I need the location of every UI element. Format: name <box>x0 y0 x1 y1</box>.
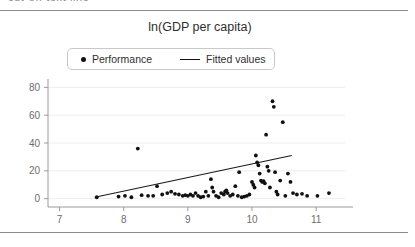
data-point <box>140 193 144 197</box>
y-tick-label: 40 <box>29 138 41 149</box>
tick-labels: 0204060807891011 <box>29 82 322 225</box>
data-point <box>206 194 210 198</box>
data-point <box>272 105 276 109</box>
data-point <box>123 194 127 198</box>
data-point <box>263 181 267 185</box>
data-point <box>237 170 241 174</box>
data-point <box>136 147 140 151</box>
data-point <box>129 195 133 199</box>
data-point <box>201 195 205 199</box>
data-point <box>281 120 285 124</box>
x-tick-label: 9 <box>185 214 191 225</box>
data-point <box>233 184 237 188</box>
data-point <box>151 194 155 198</box>
data-point <box>267 169 271 173</box>
data-point <box>254 154 258 158</box>
chart-figure: ln(GDP per capita) Performance Fitted va… <box>0 11 415 231</box>
data-point <box>278 179 282 183</box>
clipped-text-strip: cut-off text line <box>0 0 415 9</box>
data-point <box>283 194 287 198</box>
data-point <box>273 170 277 174</box>
data-point <box>165 191 169 195</box>
data-points <box>95 99 331 199</box>
data-point <box>271 99 275 103</box>
gridlines <box>48 87 345 198</box>
data-point <box>316 194 320 198</box>
data-point <box>268 186 272 190</box>
data-point <box>265 165 269 169</box>
x-tick-label: 10 <box>246 214 258 225</box>
fitted-line-path <box>95 156 292 198</box>
data-point <box>146 194 150 198</box>
data-point <box>212 190 216 194</box>
data-point <box>194 191 198 195</box>
data-point <box>300 192 304 196</box>
x-tick-label: 11 <box>311 214 322 225</box>
data-point <box>209 177 213 181</box>
data-point <box>117 195 121 199</box>
y-tick-label: 0 <box>34 193 40 204</box>
divider-bottom <box>0 232 408 233</box>
data-point <box>173 192 177 196</box>
data-point <box>264 133 268 137</box>
data-point <box>305 194 309 198</box>
data-point <box>204 190 208 194</box>
data-point <box>177 193 181 197</box>
scatter-plot: 0204060807891011 <box>0 11 415 231</box>
data-point <box>191 194 195 198</box>
data-point <box>226 191 230 195</box>
data-point <box>286 172 290 176</box>
data-point <box>289 180 293 184</box>
y-tick-label: 60 <box>29 110 41 121</box>
data-point <box>231 193 235 197</box>
data-point <box>253 186 257 190</box>
y-tick-label: 80 <box>29 82 41 93</box>
data-point <box>295 193 299 197</box>
data-point <box>291 191 295 195</box>
x-tick-label: 7 <box>57 214 63 225</box>
data-point <box>327 191 331 195</box>
data-point <box>160 193 164 197</box>
data-point <box>258 172 262 176</box>
data-point <box>210 186 214 190</box>
data-point <box>248 193 252 197</box>
fitted-line <box>95 156 292 198</box>
clipped-text-line: cut-off text line <box>8 0 90 3</box>
data-point <box>169 190 173 194</box>
data-point <box>217 195 221 199</box>
data-point <box>236 194 240 198</box>
data-point <box>276 193 280 197</box>
data-point <box>257 163 261 167</box>
y-tick-label: 20 <box>29 165 41 176</box>
x-tick-label: 8 <box>121 214 127 225</box>
